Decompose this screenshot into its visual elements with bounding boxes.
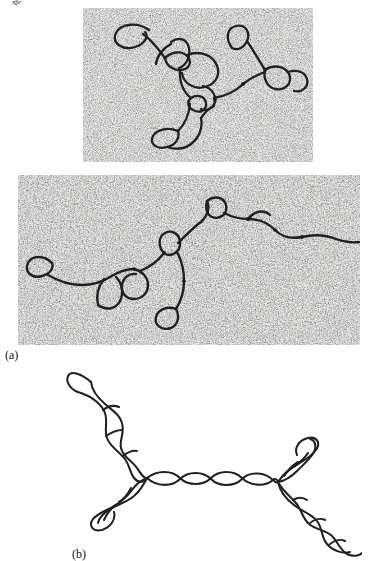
chi-form-dna-schematic [62,360,362,560]
dna-molecule-trace-top [83,8,313,162]
electron-micrograph-top [83,8,313,162]
holliday-junction-diagram [62,360,362,560]
arm-upper-right [278,438,318,482]
arm-lower-left [91,478,147,530]
central-helix-segment [147,472,278,485]
dna-molecule-trace-bottom [18,175,360,345]
electron-micrograph-bottom [18,175,360,345]
figure-root: (a) [0,0,374,561]
panel-label-b: (b) [72,548,86,560]
panel-label-a: (a) [5,349,18,361]
scan-artifact-speck [10,0,26,9]
arm-upper-left [67,373,147,482]
arm-lower-right [278,482,362,556]
